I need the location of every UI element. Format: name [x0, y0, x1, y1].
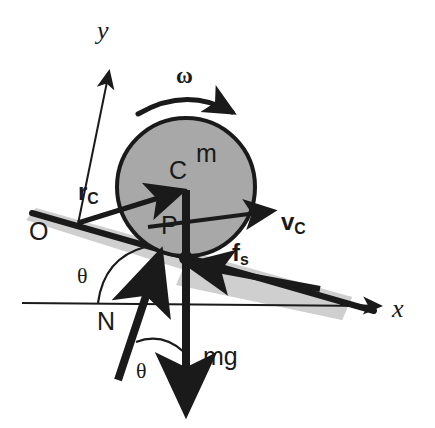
- fs-main: f: [232, 239, 240, 266]
- center-label: C: [169, 158, 187, 183]
- normal-force-label: N: [97, 309, 115, 334]
- omega-rotation-arc: [138, 99, 232, 114]
- rc-subscript: C: [87, 190, 98, 207]
- mass-label: m: [196, 141, 217, 166]
- contact-point-label: P: [161, 213, 178, 238]
- origin-label: O: [29, 219, 48, 244]
- rc-main: r: [78, 178, 87, 205]
- velocity-vector-vc-label: vC: [281, 210, 306, 237]
- physics-diagram-canvas: y x O ω m C P rC vC fs N mg θ θ: [0, 0, 435, 428]
- vc-subscript: C: [294, 220, 305, 237]
- theta-incline-label: θ: [77, 265, 88, 287]
- theta-normal-arc: [136, 339, 184, 352]
- friction-vector-fs-label: fs: [232, 241, 249, 268]
- x-axis-label: x: [392, 296, 404, 322]
- y-axis-label: y: [97, 18, 109, 44]
- weight-label: mg: [203, 344, 238, 369]
- vc-main: v: [281, 208, 294, 235]
- fs-subscript: s: [240, 251, 249, 268]
- contact-point-dot: [179, 251, 193, 265]
- omega-label: ω: [176, 64, 193, 87]
- position-vector-rc-label: rC: [78, 180, 99, 207]
- theta-normal-label: θ: [136, 360, 147, 382]
